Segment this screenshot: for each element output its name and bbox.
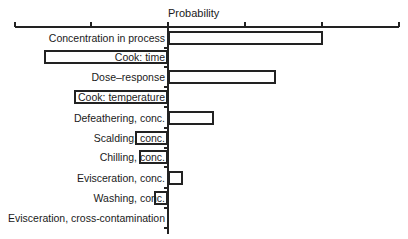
category-label: Dose–response <box>91 70 165 84</box>
category-tick <box>164 127 168 129</box>
category-tick <box>164 166 168 168</box>
category-tick <box>164 66 168 68</box>
bar <box>168 111 214 125</box>
category-label: Scalding, conc. <box>94 131 165 145</box>
category-label: Concentration in process <box>49 31 165 45</box>
category-label: Washing, conc. <box>94 191 165 205</box>
category-label: Evisceration, cross-contamination <box>8 211 165 225</box>
category-label: Cook: temperature <box>78 90 165 104</box>
category-tick <box>164 227 168 229</box>
category-tick <box>164 106 168 108</box>
axis-tick <box>244 22 246 27</box>
category-label: Defeathering, conc. <box>74 111 165 125</box>
axis-tick <box>321 22 323 27</box>
category-tick <box>164 187 168 189</box>
bar <box>168 171 183 185</box>
category-label: Cook: time <box>115 50 165 64</box>
category-tick <box>164 147 168 149</box>
category-tick <box>164 86 168 88</box>
x-axis <box>15 26 399 28</box>
category-label: Chilling, conc. <box>100 150 165 164</box>
category-label: Evisceration, conc. <box>77 171 165 185</box>
category-tick <box>164 47 168 49</box>
category-tick <box>164 207 168 209</box>
bar <box>168 70 276 84</box>
axis-tick <box>398 22 400 27</box>
chart-title: Probability <box>168 7 219 19</box>
bar <box>168 31 323 45</box>
axis-tick <box>90 22 92 27</box>
axis-tick <box>14 22 16 27</box>
